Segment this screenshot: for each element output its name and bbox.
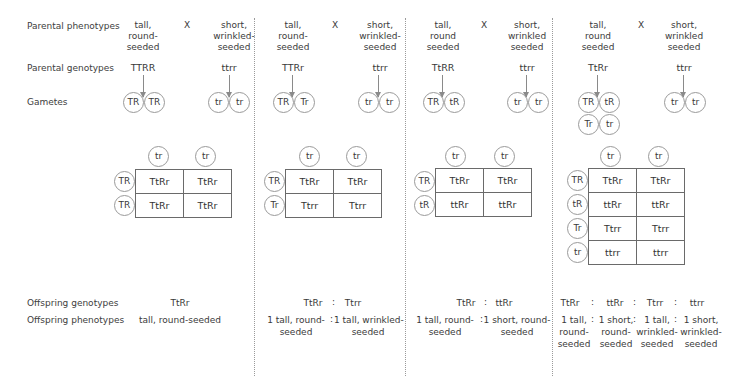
arrow-down-icon <box>526 75 527 97</box>
phenotype-line: 1 tall, <box>556 314 592 326</box>
ratio-separator: : <box>591 314 594 324</box>
punnett-cell: TtRr <box>136 194 184 218</box>
arrow-down-icon <box>683 75 684 97</box>
punnett-cell: TtRr <box>484 169 532 193</box>
gamete-circle: tr <box>208 92 229 113</box>
punnett-row-gamete: tR <box>414 195 435 216</box>
punnett-col-gamete: tr <box>494 146 515 167</box>
phenotype-line: wrinkled- <box>635 326 679 338</box>
phenotype-line: tall, <box>413 20 473 31</box>
offspring-genotype: TtRr <box>451 297 481 309</box>
punnett-cell: TtRr <box>589 169 637 193</box>
ratio-separator: : <box>332 297 335 307</box>
parent1-genotype: TtRr <box>573 62 623 73</box>
ratio-separator: : <box>591 297 594 307</box>
gamete-circle: tR <box>599 92 620 113</box>
row-label-offspring-genotypes: Offspring genotypes <box>27 298 118 308</box>
phenotype-line: short, <box>204 20 264 31</box>
phenotype-line: 1 short, <box>597 314 635 326</box>
row-label-parental-genotypes: Parental genotypes <box>27 63 114 73</box>
offspring-genotype: ttrr <box>682 297 712 309</box>
punnett-row-gamete: Tr <box>264 195 285 216</box>
offspring-genotype: ttRr <box>489 297 519 309</box>
phenotype-line: tall, <box>568 20 628 31</box>
phenotype-line: round <box>413 31 473 42</box>
phenotype-line: seeded <box>334 326 402 338</box>
offspring-genotype: TtRr <box>160 297 200 309</box>
phenotype-line: seeded <box>568 42 628 53</box>
punnett-square: TtRrTtRr TtrrTtrr <box>285 169 382 218</box>
phenotype-line: 1 tall, round- <box>411 314 479 326</box>
punnett-col-gamete: tr <box>648 146 669 167</box>
punnett-cell: TtRr <box>184 170 232 194</box>
offspring-phenotype: 1 tall, round- seeded <box>411 314 479 338</box>
parent2-phenotype: short, wrinkled seeded <box>654 20 714 53</box>
row-label-offspring-phenotypes: Offspring phenotypes <box>27 315 124 325</box>
gamete-circle: tr <box>507 92 528 113</box>
offspring-phenotype: 1 short, wrinkled- seeded <box>678 314 724 350</box>
punnett-col-gamete: tr <box>148 146 169 167</box>
phenotype-line: wrinkled <box>497 31 557 42</box>
offspring-phenotype: 1 short, round- seeded <box>597 314 635 350</box>
punnett-cell: ttrr <box>637 241 685 265</box>
parent2-phenotype: short, wrinkled seeded <box>497 20 557 53</box>
parent2-genotype: ttrr <box>502 62 552 73</box>
phenotype-line: 1 tall, <box>635 314 679 326</box>
phenotype-line: round <box>568 31 628 42</box>
arrow-down-icon <box>442 75 443 97</box>
phenotype-line: wrinkled- <box>204 31 264 42</box>
column-divider <box>254 18 255 376</box>
phenotype-line: seeded <box>597 338 635 350</box>
phenotype-line: seeded <box>113 42 173 53</box>
column-divider <box>405 18 406 376</box>
phenotype-line: short, <box>654 20 714 31</box>
phenotype-line: seeded <box>635 338 679 350</box>
ratio-separator: : <box>484 297 487 307</box>
parent1-genotype: TtRR <box>418 62 468 73</box>
parent1-genotype: TTRr <box>268 62 318 73</box>
punnett-cell: ttRr <box>436 193 484 217</box>
punnett-row-gamete: TR <box>264 171 285 192</box>
offspring-genotype: Ttrr <box>640 297 670 309</box>
arrow-down-icon <box>378 75 379 97</box>
punnett-row-gamete: Tr <box>567 218 588 239</box>
punnett-cell: TtRr <box>334 170 382 194</box>
punnett-row-gamete: tr <box>567 242 588 263</box>
cross-symbol: X <box>481 20 487 30</box>
offspring-phenotype: 1 tall, wrinkled- seeded <box>334 314 402 338</box>
ratio-separator: : <box>330 314 333 324</box>
row-label-gametes: Gametes <box>27 97 68 107</box>
offspring-genotype: Ttrr <box>338 297 368 309</box>
punnett-cell: TtRr <box>136 170 184 194</box>
phenotype-line: seeded <box>654 42 714 53</box>
offspring-phenotype: tall, round-seeded <box>135 314 225 326</box>
punnett-cell: ttRr <box>637 193 685 217</box>
punnett-row-gamete: TR <box>114 195 135 216</box>
punnett-cell: ttRr <box>589 193 637 217</box>
punnett-cell: TtRr <box>286 170 334 194</box>
parent1-phenotype: tall, round seeded <box>413 20 473 53</box>
parent2-phenotype: short, wrinkled- seeded <box>350 20 410 53</box>
gamete-circle: TR <box>123 92 144 113</box>
parent2-phenotype: short, wrinkled- seeded <box>204 20 264 53</box>
cross-symbol: X <box>332 20 338 30</box>
ratio-separator: : <box>633 297 636 307</box>
punnett-cell: Ttrr <box>589 217 637 241</box>
phenotype-line: seeded <box>483 326 551 338</box>
gamete-circle: tr <box>229 92 250 113</box>
punnett-col-gamete: tr <box>600 146 621 167</box>
arrow-down-icon <box>597 75 598 97</box>
phenotype-line: seeded <box>350 42 410 53</box>
cross-symbol: X <box>184 20 190 30</box>
punnett-cell: ttrr <box>589 241 637 265</box>
ratio-separator: : <box>674 297 677 307</box>
punnett-row-gamete: tR <box>567 194 588 215</box>
offspring-genotype: TtRr <box>556 297 584 309</box>
column-divider <box>552 18 553 376</box>
phenotype-line: round- <box>263 31 323 42</box>
phenotype-line: round- <box>597 326 635 338</box>
gamete-circle: tr <box>528 92 549 113</box>
punnett-cell: ttRr <box>484 193 532 217</box>
parent2-genotype: ttrr <box>659 62 709 73</box>
phenotype-line: seeded <box>556 338 592 350</box>
